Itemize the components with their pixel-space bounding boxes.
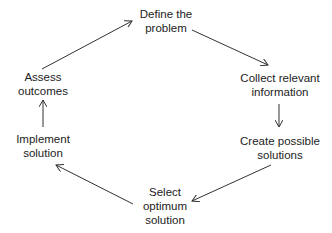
node-label-line: Select [130, 185, 200, 199]
node-define-problem: Define the problem [120, 7, 212, 35]
node-label-line: solution [5, 146, 81, 160]
arrow-select-to-implement [56, 165, 133, 204]
node-select-optimum-solution: Select optimum solution [130, 185, 200, 227]
node-label-line: solutions [230, 148, 330, 162]
node-label-line: optimum [130, 199, 200, 213]
node-create-solutions: Create possible solutions [230, 134, 330, 162]
node-label-line: problem [120, 21, 212, 35]
node-label-line: Implement [5, 132, 81, 146]
arrow-create-to-select [192, 165, 271, 201]
node-label-line: Collect relevant [228, 71, 332, 85]
node-label-line: Assess [10, 70, 76, 84]
node-label-line: solution [130, 213, 200, 227]
node-collect-information: Collect relevant information [228, 71, 332, 99]
node-label-line: information [228, 85, 332, 99]
arrow-assess-to-define [42, 21, 132, 69]
node-assess-outcomes: Assess outcomes [10, 70, 76, 98]
node-label-line: Define the [120, 7, 212, 21]
node-label-line: Create possible [230, 134, 330, 148]
node-label-line: outcomes [10, 84, 76, 98]
arrow-define-to-collect [192, 30, 268, 65]
node-implement-solution: Implement solution [5, 132, 81, 160]
